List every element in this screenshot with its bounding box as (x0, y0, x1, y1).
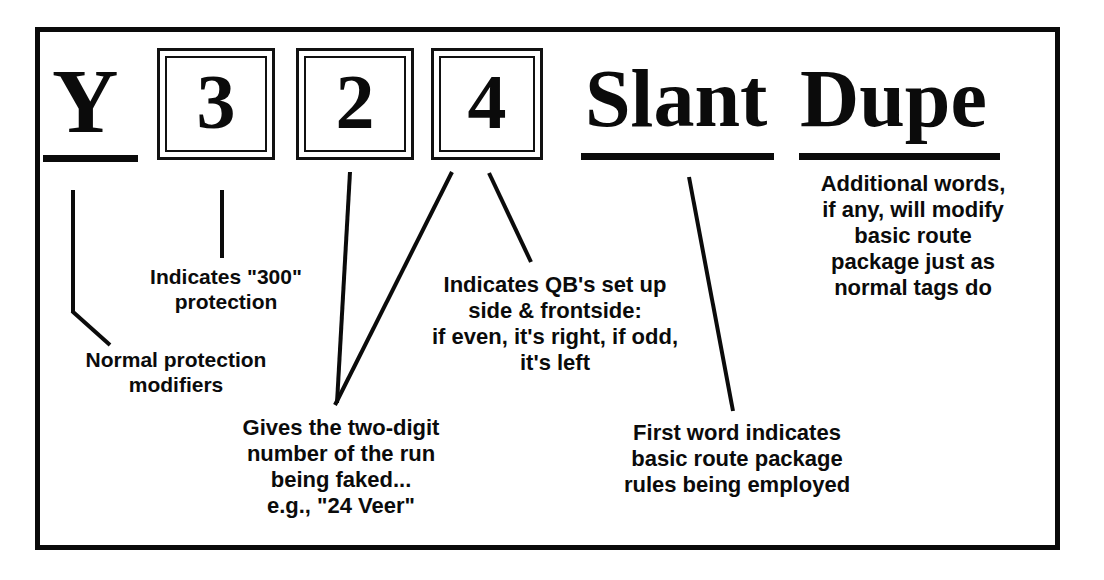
underline-word-slant (581, 153, 774, 160)
digit-box-inner-border: 3 (165, 56, 267, 152)
annotation-additional-words: Additional words, if any, will modify ba… (782, 171, 1044, 301)
header-digit-box-2: 2 (296, 48, 414, 160)
annotation-first-word: First word indicates basic route package… (587, 420, 887, 498)
annotation-two-digit-run: Gives the two-digit number of the run be… (196, 415, 486, 519)
header-digit-box-3: 3 (157, 48, 275, 160)
header-digit-box-4: 4 (431, 48, 543, 160)
underline-letter-y (43, 155, 138, 162)
annotation-qb-setup: Indicates QB's set up side & frontside: … (396, 272, 714, 376)
underline-word-dupe (799, 153, 1000, 160)
header-word-dupe: Dupe (800, 58, 987, 140)
header-word-slant: Slant (585, 58, 767, 140)
header-letter-y: Y (52, 55, 118, 147)
header-digit-3: 3 (197, 63, 236, 141)
annotation-300-protection: Indicates "300" protection (108, 265, 344, 315)
digit-box-inner-border: 2 (304, 56, 406, 152)
header-digit-2: 2 (336, 63, 375, 141)
digit-box-inner-border: 4 (439, 56, 535, 152)
play-call-nomenclature-diagram: Y 3 2 4 Slant Dupe Normal (0, 0, 1104, 580)
annotation-normal-protection: Normal protection modifiers (48, 348, 304, 398)
header-digit-4: 4 (468, 63, 507, 141)
